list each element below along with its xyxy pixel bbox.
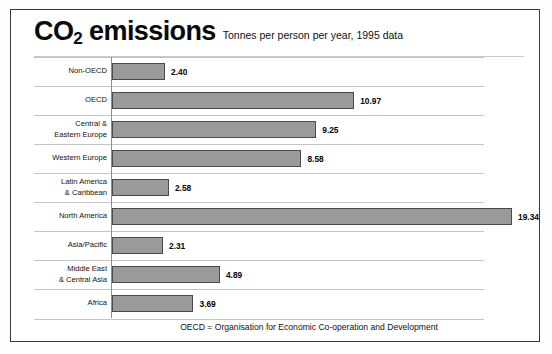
- bar-track: 2.31: [112, 231, 539, 260]
- bar-category-label: Africa: [34, 289, 107, 318]
- bar-value-label: 2.31: [169, 241, 185, 251]
- bar-category-line1: Asia/Pacific: [68, 240, 107, 250]
- bar: [112, 63, 165, 80]
- bar-track: 19.34: [112, 202, 539, 231]
- chart-plot-area: Non-OECD 2.40 OECD 1: [11, 57, 539, 319]
- bar-value-label: 4.89: [226, 270, 242, 280]
- bar-category-label: Asia/Pacific: [34, 231, 107, 260]
- chart-figure: CO2 emissions Tonnes per person per year…: [0, 0, 552, 354]
- table-row: Non-OECD 2.40: [11, 57, 539, 86]
- bar-category-line1: Africa: [88, 298, 107, 308]
- title-rest: emissions: [82, 16, 216, 46]
- bar: [112, 266, 220, 283]
- bar-category-label: Non-OECD: [34, 57, 107, 86]
- bar-category-label: North America: [34, 202, 107, 231]
- bar-category-line1: OECD: [85, 95, 107, 105]
- bar: [112, 150, 301, 167]
- bar-track: 3.69: [112, 289, 539, 318]
- bar: [112, 92, 354, 109]
- bar: [112, 121, 316, 138]
- bar: [112, 179, 169, 196]
- bar-rows: Non-OECD 2.40 OECD 1: [11, 57, 539, 318]
- bar-category-line1: Western Europe: [52, 153, 107, 163]
- bar: [112, 295, 193, 312]
- bar-track: 4.89: [112, 260, 539, 289]
- table-row: OECD 10.97: [11, 86, 539, 115]
- chart-footnote: OECD = Organisation for Economic Co-oper…: [34, 322, 524, 332]
- footer-divider: [34, 319, 484, 320]
- bar-value-label: 8.58: [307, 154, 323, 164]
- bar-category-line2: Eastern Europe: [54, 130, 107, 140]
- table-row: Africa 3.69: [11, 289, 539, 318]
- bar-category-line2: & Caribbean: [65, 188, 107, 198]
- bar-value-label: 2.40: [171, 67, 187, 77]
- bar-track: 9.25: [112, 115, 539, 144]
- bar-track: 8.58: [112, 144, 539, 173]
- title-main: CO: [34, 16, 73, 46]
- table-row: Central & Eastern Europe 9.25: [11, 115, 539, 144]
- bar-value-label: 2.58: [175, 183, 191, 193]
- bar-category-line2: & Central Asia: [59, 275, 107, 285]
- table-row: Latin America & Caribbean 2.58: [11, 173, 539, 202]
- bar-track: 10.97: [112, 86, 539, 115]
- chart-frame: CO2 emissions Tonnes per person per year…: [10, 9, 540, 342]
- page-title: CO2 emissions: [34, 18, 216, 45]
- chart-subtitle: Tonnes per person per year, 1995 data: [223, 29, 403, 41]
- bar: [112, 208, 512, 225]
- bar-category-label: Western Europe: [34, 144, 107, 173]
- chart-header: CO2 emissions Tonnes per person per year…: [34, 18, 524, 56]
- bar-value-label: 9.25: [322, 125, 338, 135]
- bar-track: 2.40: [112, 57, 539, 86]
- table-row: Middle East & Central Asia 4.89: [11, 260, 539, 289]
- bar-category-line1: Non-OECD: [69, 66, 107, 76]
- bar-category-label: Latin America & Caribbean: [34, 173, 107, 202]
- bar-category-label: Middle East & Central Asia: [34, 260, 107, 289]
- bar-value-label: 10.97: [360, 96, 381, 106]
- bar-category-line1: Middle East: [67, 264, 107, 274]
- bar-value-label: 19.34: [518, 212, 539, 222]
- title-subscript: 2: [73, 29, 82, 48]
- bar-category-line1: Central &: [75, 119, 107, 129]
- bar-value-label: 3.69: [199, 299, 215, 309]
- table-row: Asia/Pacific 2.31: [11, 231, 539, 260]
- bar-category-label: OECD: [34, 86, 107, 115]
- bar-track: 2.58: [112, 173, 539, 202]
- table-row: Western Europe 8.58: [11, 144, 539, 173]
- bar: [112, 237, 163, 254]
- bar-category-line1: Latin America: [61, 177, 107, 187]
- bar-category-line1: North America: [59, 211, 107, 221]
- bar-category-label: Central & Eastern Europe: [34, 115, 107, 144]
- table-row: North America 19.34: [11, 202, 539, 231]
